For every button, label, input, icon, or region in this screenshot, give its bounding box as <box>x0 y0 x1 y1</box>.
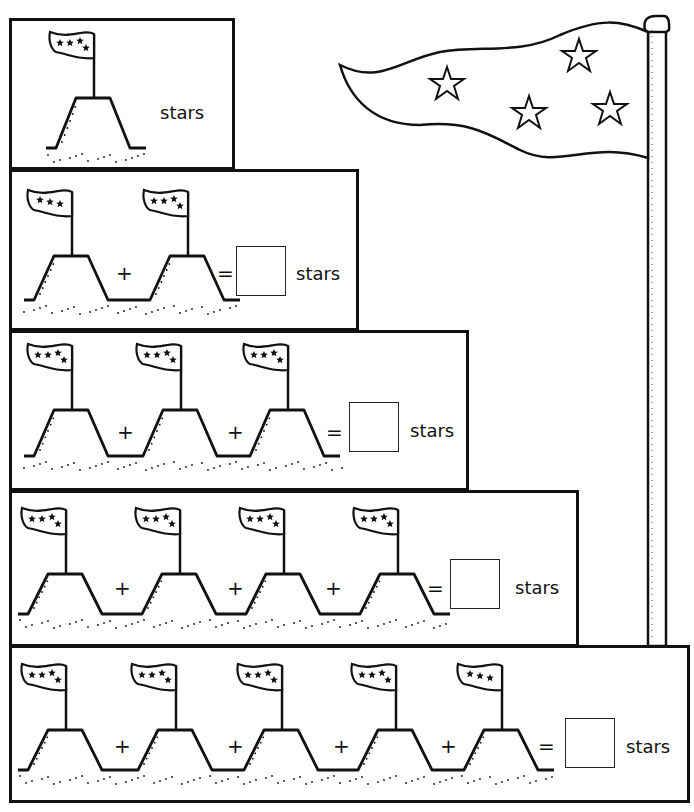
row-2-hills <box>23 190 240 315</box>
row-3-answer-box[interactable] <box>349 402 399 452</box>
row-1-stars-label: stars <box>160 102 204 123</box>
row-3-stars-label: stars <box>410 420 454 441</box>
plus-sign: + <box>227 576 244 600</box>
hill-flag-illustrations <box>0 0 694 812</box>
row-5-hills <box>18 664 554 785</box>
row-5-stars-label: stars <box>626 736 670 757</box>
equals-sign: = <box>217 261 234 285</box>
plus-sign: + <box>333 734 350 758</box>
plus-sign: + <box>440 734 457 758</box>
row-2-stars-label: stars <box>296 263 340 284</box>
plus-sign: + <box>114 576 131 600</box>
equals-sign: = <box>326 420 343 444</box>
row-4-hills <box>18 508 450 629</box>
row-1-hills <box>46 32 146 163</box>
plus-sign: + <box>227 734 244 758</box>
plus-sign: + <box>117 420 134 444</box>
row-4-answer-box[interactable] <box>450 559 500 609</box>
row-4-stars-label: stars <box>515 577 559 598</box>
plus-sign: + <box>116 261 133 285</box>
plus-sign: + <box>227 420 244 444</box>
row-2-answer-box[interactable] <box>236 246 286 296</box>
plus-sign: + <box>325 576 342 600</box>
equals-sign: = <box>427 576 444 600</box>
row-5-answer-box[interactable] <box>565 718 615 768</box>
equals-sign: = <box>538 734 555 758</box>
row-3-hills <box>23 344 343 471</box>
plus-sign: + <box>114 734 131 758</box>
